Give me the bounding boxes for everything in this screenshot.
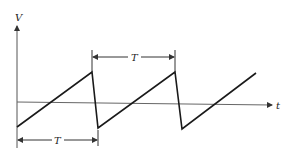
- x-axis: [17, 102, 272, 105]
- bottom-period-label: T: [54, 135, 62, 146]
- sawtooth-line: [17, 72, 256, 129]
- sawtooth-diagram: V t T T: [0, 0, 289, 154]
- x-axis-label: t: [276, 100, 281, 111]
- y-axis-label: V: [15, 12, 24, 23]
- top-period-label: T: [131, 52, 139, 63]
